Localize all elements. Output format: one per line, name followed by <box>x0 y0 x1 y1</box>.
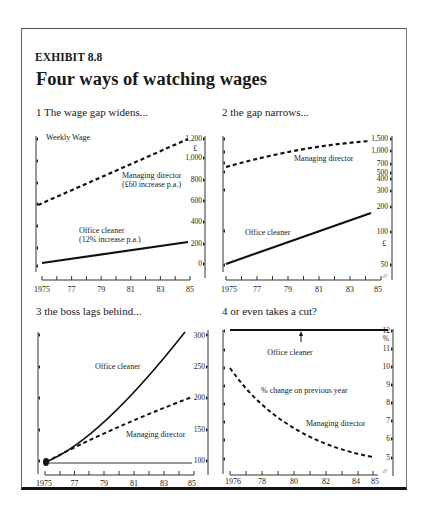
chart-4: 12 % 11 10 9 8 7 6 5 // 1976 78 80 82 84… <box>223 326 393 486</box>
svg-text:0: 0 <box>198 259 202 268</box>
svg-text:5: 5 <box>386 453 390 462</box>
svg-text:400: 400 <box>191 217 203 226</box>
svg-text:1,000: 1,000 <box>371 146 388 155</box>
svg-text:81: 81 <box>127 285 135 294</box>
svg-text:Managing director: Managing director <box>122 171 182 180</box>
svg-text:77: 77 <box>71 479 79 488</box>
svg-text:% change on previous year: % change on previous year <box>261 386 348 395</box>
svg-text:1,000: 1,000 <box>185 153 202 162</box>
svg-text:9: 9 <box>386 380 390 389</box>
svg-text:Office cleaner: Office cleaner <box>79 226 125 235</box>
chart-2: 1,500 1,000 700 500 400 300 200 100 £ 50… <box>221 134 392 294</box>
chart-3: 300 250 200 150 100 1975 77 79 81 83 85 … <box>36 330 208 488</box>
svg-text:(12% increase p.a.): (12% increase p.a.) <box>79 235 141 244</box>
svg-text:85: 85 <box>186 285 194 294</box>
svg-text:100: 100 <box>377 227 389 236</box>
chart-2-x-labels: 1975 77 79 81 83 85 <box>221 285 382 294</box>
svg-text:250: 250 <box>194 362 206 371</box>
chart-2-oc-line <box>226 213 371 264</box>
svg-text:300: 300 <box>377 186 389 195</box>
svg-text:400: 400 <box>377 174 389 183</box>
svg-text:82: 82 <box>322 477 330 486</box>
svg-text:6: 6 <box>386 434 390 443</box>
svg-text:83: 83 <box>346 285 354 294</box>
chart-2-y-labels: 1,500 1,000 700 500 400 300 200 100 £ 50 <box>371 134 388 269</box>
svg-text:100: 100 <box>194 456 206 465</box>
svg-text:Office cleaner: Office cleaner <box>95 362 141 371</box>
svg-text:50: 50 <box>381 260 389 269</box>
svg-text:80: 80 <box>290 477 298 486</box>
svg-text:150: 150 <box>194 425 206 434</box>
svg-text://: // <box>382 467 388 475</box>
chart-4-y-labels: 12 % 11 10 9 8 7 6 5 <box>383 326 391 462</box>
svg-text:300: 300 <box>194 331 206 340</box>
svg-text:77: 77 <box>68 285 76 294</box>
svg-text:Office cleaner: Office cleaner <box>267 348 313 357</box>
svg-text:800: 800 <box>191 175 203 184</box>
svg-text:79: 79 <box>100 479 108 488</box>
svg-text:83: 83 <box>160 479 168 488</box>
svg-text:700: 700 <box>377 159 389 168</box>
svg-text://: // <box>382 272 388 280</box>
chart-1-oc-line <box>42 242 188 263</box>
svg-text:85: 85 <box>371 477 379 486</box>
chart-4-md-line <box>230 368 373 457</box>
svg-text:79: 79 <box>97 285 105 294</box>
svg-text:Office cleaner: Office cleaner <box>245 228 291 237</box>
svg-text:1975: 1975 <box>34 285 50 294</box>
svg-text:Managing director: Managing director <box>306 419 366 428</box>
svg-text:79: 79 <box>284 285 292 294</box>
svg-text:81: 81 <box>315 285 323 294</box>
svg-text:Managing director: Managing director <box>294 154 354 163</box>
svg-text:1976: 1976 <box>225 477 241 486</box>
svg-text:£: £ <box>193 144 197 153</box>
svg-text:10: 10 <box>383 362 391 371</box>
chart-1-x-labels: 1975 77 79 81 83 85 <box>34 285 194 294</box>
svg-text:600: 600 <box>191 196 203 205</box>
arrow-up-icon <box>299 331 303 336</box>
svg-text:200: 200 <box>194 393 206 402</box>
svg-text:77: 77 <box>253 285 261 294</box>
chart-1-y-labels: 1,200 £ 1,000 800 600 400 200 0 <box>185 134 202 268</box>
svg-text:85: 85 <box>188 479 196 488</box>
svg-text:1975: 1975 <box>221 285 237 294</box>
chart-3-oc-line <box>46 332 185 462</box>
origin-dot <box>43 458 49 466</box>
svg-text:(£60 increase p.a.): (£60 increase p.a.) <box>122 180 181 189</box>
charts-canvas: 1,200 £ 1,000 800 600 400 200 0 1975 77 … <box>0 0 433 521</box>
svg-text:85: 85 <box>374 285 382 294</box>
svg-text:81: 81 <box>130 479 138 488</box>
svg-text:84: 84 <box>352 477 360 486</box>
chart-1: 1,200 £ 1,000 800 600 400 200 0 1975 77 … <box>34 133 205 294</box>
svg-text:8: 8 <box>386 398 390 407</box>
svg-text:%: % <box>383 334 389 343</box>
svg-text:1975: 1975 <box>36 479 52 488</box>
chart-3-x-labels: 1975 77 79 81 83 85 <box>36 479 196 488</box>
svg-text:£: £ <box>382 239 386 248</box>
svg-text:7: 7 <box>386 416 390 425</box>
svg-text:11: 11 <box>383 344 390 353</box>
svg-text:Weekly Wage: Weekly Wage <box>46 133 91 142</box>
svg-text:Managing director: Managing director <box>126 430 186 439</box>
svg-text:1,500: 1,500 <box>371 134 388 143</box>
chart-3-y-labels: 300 250 200 150 100 <box>194 331 206 465</box>
svg-text:200: 200 <box>377 202 389 211</box>
svg-text:83: 83 <box>156 285 164 294</box>
svg-text:200: 200 <box>191 239 203 248</box>
svg-text:78: 78 <box>258 477 266 486</box>
chart-4-x-labels: 1976 78 80 82 84 85 <box>225 477 379 486</box>
